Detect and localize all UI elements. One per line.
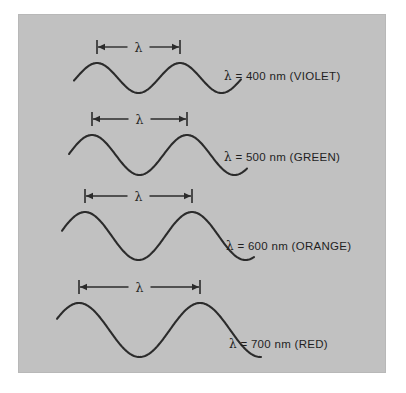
dimension-arrowhead-red-left	[80, 284, 87, 290]
wave-row-red: λ λ = 700 nm (RED)	[19, 280, 385, 390]
wave-curve-green	[69, 135, 247, 175]
dimension-arrowhead-orange-left	[86, 193, 93, 199]
dimension-lambda-violet: λ	[135, 40, 143, 55]
wave-label-violet: λ = 400 nm (VIOLET)	[224, 69, 341, 83]
dimension-lambda-orange: λ	[135, 189, 143, 204]
dimension-lambda-red: λ	[136, 280, 144, 295]
wavelength-figure: λ λ = 400 nm (VIOLET) λ λ = 500 nm (GREE…	[0, 0, 406, 393]
dimension-arrowhead-green-left	[93, 116, 100, 122]
dimension-arrowhead-orange-right	[184, 193, 191, 199]
dimension-arrowhead-red-right	[192, 284, 199, 290]
wave-label-orange: λ = 600 nm (ORANGE)	[226, 239, 351, 253]
wave-graphic-orange: λ	[19, 185, 385, 290]
dimension-arrowhead-violet-left	[98, 44, 105, 50]
dimension-lambda-green: λ	[136, 112, 144, 127]
figure-panel: λ λ = 400 nm (VIOLET) λ λ = 500 nm (GREE…	[19, 15, 385, 372]
wave-row-orange: λ λ = 600 nm (ORANGE)	[19, 185, 385, 290]
wave-graphic-green: λ	[19, 100, 385, 195]
dimension-arrowhead-violet-right	[172, 44, 179, 50]
wave-label-red: λ = 700 nm (RED)	[229, 337, 328, 351]
label-lambda-glyph-red: λ	[229, 337, 237, 351]
wave-label-green: λ = 500 nm (GREEN)	[224, 150, 340, 164]
wave-row-green: λ λ = 500 nm (GREEN)	[19, 100, 385, 195]
dimension-arrowhead-green-right	[179, 116, 186, 122]
label-lambda-glyph-green: λ	[224, 150, 232, 164]
wave-graphic-red: λ	[19, 280, 385, 390]
label-lambda-glyph-orange: λ	[226, 239, 234, 253]
wave-row-violet: λ λ = 400 nm (VIOLET)	[19, 15, 385, 105]
wave-graphic-violet: λ	[19, 15, 385, 105]
label-lambda-glyph-violet: λ	[224, 69, 232, 83]
wave-curve-violet	[74, 63, 241, 93]
